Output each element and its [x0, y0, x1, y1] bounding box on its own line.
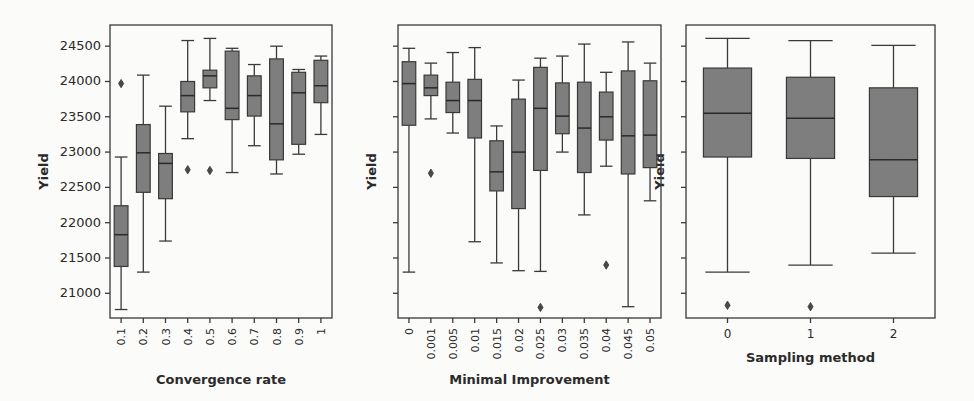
- box-0.9: [292, 69, 306, 154]
- x-tick-label: 0.2: [137, 328, 150, 346]
- box-0.6: [225, 48, 239, 172]
- y-tick-label: 24500: [60, 38, 101, 53]
- panel-0: 2100021500220002250023000235002400024500…: [0, 0, 974, 401]
- x-axis-label: Convergence rate: [156, 372, 286, 387]
- box-0.7: [247, 65, 261, 146]
- y-tick-label: 21500: [60, 250, 101, 265]
- box-1: [314, 56, 328, 134]
- box-0.3: [159, 106, 173, 241]
- y-tick-label: 22500: [60, 179, 101, 194]
- x-tick-label: 1: [315, 328, 328, 335]
- y-tick-label: 21000: [60, 285, 101, 300]
- x-tick-label: 0.1: [115, 328, 128, 346]
- y-tick-label: 22000: [60, 215, 101, 230]
- y-axis-label: Yield: [36, 153, 51, 190]
- x-tick-label: 0.9: [293, 328, 306, 346]
- x-tick-label: 0.3: [160, 328, 173, 346]
- box-0.1: [114, 79, 128, 309]
- x-tick-label: 0.8: [271, 328, 284, 346]
- box-0.8: [270, 46, 284, 174]
- x-tick-label: 0.7: [248, 328, 261, 346]
- x-tick-label: 0.6: [226, 328, 239, 346]
- box-0.2: [136, 75, 150, 272]
- y-tick-label: 23500: [60, 109, 101, 124]
- y-tick-label: 24000: [60, 73, 101, 88]
- boxplot-figure: Yield012Sampling methodYield00.0010.0050…: [0, 0, 974, 401]
- x-tick-label: 0.4: [182, 328, 195, 346]
- box-0.4: [181, 41, 195, 174]
- x-tick-label: 0.5: [204, 328, 217, 346]
- y-tick-label: 23000: [60, 144, 101, 159]
- box-0.5: [203, 38, 217, 174]
